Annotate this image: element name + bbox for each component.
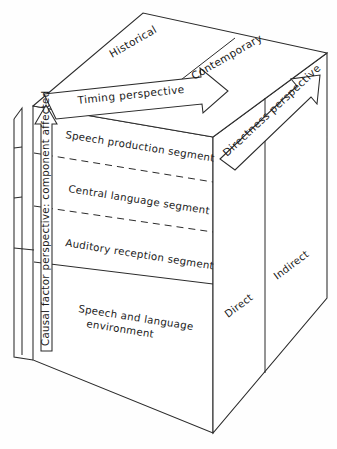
causal-tick-3: [14, 248, 34, 250]
causal-guide-inner: [14, 108, 22, 355]
causal-tick-2: [14, 197, 22, 198]
causal-tick-1: [14, 147, 22, 148]
causal-guide-band: [14, 119, 33, 360]
cube-diagram: Historical Contemporary Timing perspecti…: [0, 0, 337, 449]
figure-container: Historical Contemporary Timing perspecti…: [0, 0, 337, 449]
causal-arrow-label: Causal factor perspective: component aff…: [40, 90, 51, 346]
